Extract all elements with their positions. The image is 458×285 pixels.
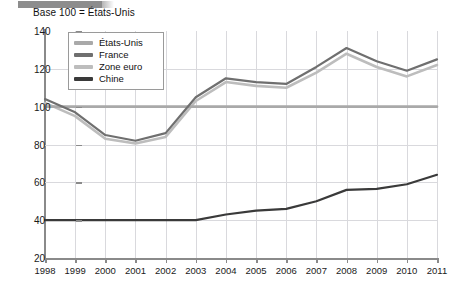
y-axis-tick bbox=[76, 182, 82, 184]
legend-swatch-chine bbox=[74, 77, 93, 81]
series-line-chine bbox=[45, 175, 437, 220]
x-axis-tick bbox=[135, 258, 137, 263]
x-axis-tick bbox=[166, 258, 168, 263]
x-axis-tick bbox=[316, 258, 318, 263]
legend-item-france: France bbox=[74, 49, 158, 61]
x-axis-tick bbox=[347, 258, 349, 263]
x-axis-tick bbox=[256, 258, 258, 263]
x-axis-tick bbox=[105, 258, 107, 263]
y-axis-tick-label: 80 bbox=[34, 139, 38, 150]
x-axis-tick bbox=[75, 258, 77, 263]
y-axis-tick-label: 100 bbox=[34, 101, 38, 112]
x-axis-tick-label: 2002 bbox=[155, 265, 176, 276]
x-axis-tick-label: 2003 bbox=[185, 265, 206, 276]
x-axis-tick bbox=[377, 258, 379, 263]
x-axis-tick-label: 2007 bbox=[306, 265, 327, 276]
x-axis-tick-label: 2008 bbox=[336, 265, 357, 276]
x-axis-tick bbox=[407, 258, 409, 263]
legend-label-etats-unis: États-Unis bbox=[99, 37, 143, 49]
x-axis-tick-label: 2010 bbox=[396, 265, 417, 276]
x-axis-tick-label: 2000 bbox=[95, 265, 116, 276]
y-axis-tick bbox=[76, 220, 82, 222]
x-axis-tick-label: 2001 bbox=[125, 265, 146, 276]
x-axis-tick-label: 1998 bbox=[34, 265, 55, 276]
x-axis-tick-label: 2006 bbox=[276, 265, 297, 276]
x-axis-tick bbox=[437, 258, 439, 263]
legend-swatch-france bbox=[74, 53, 93, 57]
x-axis-tick bbox=[286, 258, 288, 263]
legend-item-etats-unis: États-Unis bbox=[74, 37, 158, 49]
x-axis-tick-label: 2004 bbox=[215, 265, 236, 276]
x-axis bbox=[44, 258, 438, 260]
y-axis-tick bbox=[76, 145, 82, 147]
y-axis-tick-label: 20 bbox=[34, 253, 38, 264]
x-axis-tick-label: 2011 bbox=[427, 265, 447, 276]
legend-item-zone-euro: Zone euro bbox=[74, 61, 158, 73]
y-axis-tick-label: 40 bbox=[34, 215, 38, 226]
y-axis-tick-label: 140 bbox=[34, 26, 38, 37]
y-axis-tick bbox=[76, 107, 82, 109]
x-axis-tick-label: 2005 bbox=[245, 265, 266, 276]
legend-item-chine: Chine bbox=[74, 73, 158, 85]
legend-label-chine: Chine bbox=[99, 73, 124, 85]
y-axis-tick-label: 120 bbox=[34, 63, 38, 74]
x-axis-tick bbox=[45, 258, 47, 263]
y-axis-tick-label: 60 bbox=[34, 177, 38, 188]
x-axis-tick bbox=[226, 258, 228, 263]
legend-label-france: France bbox=[99, 49, 129, 61]
chart-title: Base 100 = États-Unis bbox=[33, 7, 135, 18]
legend-label-zone-euro: Zone euro bbox=[99, 61, 142, 73]
legend-swatch-etats-unis bbox=[74, 41, 93, 45]
chart-figure: Base 100 = États-Unis 20406080100120140 … bbox=[0, 0, 458, 285]
chart-legend: États-Unis France Zone euro Chine bbox=[68, 32, 164, 90]
y-axis-tick bbox=[76, 258, 82, 260]
x-axis-tick-label: 1999 bbox=[65, 265, 86, 276]
x-axis-tick-label: 2009 bbox=[366, 265, 387, 276]
legend-swatch-zone-euro bbox=[74, 65, 93, 69]
x-axis-tick bbox=[196, 258, 198, 263]
